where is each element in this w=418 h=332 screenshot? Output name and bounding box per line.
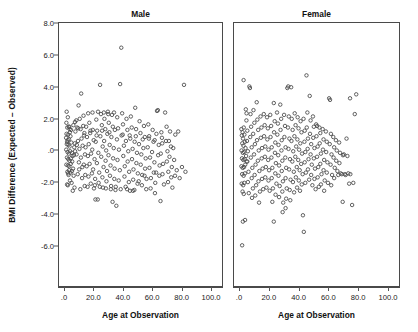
data-point [168,130,171,133]
data-point [111,157,114,160]
x-tick-mark [211,287,212,291]
data-point [272,101,275,104]
data-point [122,144,125,147]
data-point [112,146,115,149]
data-point [110,135,113,138]
data-point [240,244,243,247]
data-point [244,154,247,157]
data-point [158,164,161,167]
data-point [100,129,103,132]
data-point [324,130,327,133]
data-point [333,166,336,169]
scatter-panel-female [233,22,400,287]
data-point [277,195,280,198]
data-point [262,134,265,137]
data-point [101,176,104,179]
data-point [102,165,105,168]
data-point [139,131,142,134]
scatter-points-female [234,23,399,286]
data-point [295,165,298,168]
data-point [242,78,245,81]
data-point [178,176,181,179]
data-point [304,150,307,153]
data-point [250,176,253,179]
data-point [134,134,137,137]
scatter-points-male [59,23,222,286]
data-point [131,178,134,181]
data-point [266,138,269,141]
data-point [353,112,356,115]
data-point [292,191,295,194]
data-point [161,162,164,165]
data-point [126,128,129,131]
data-point [244,146,247,149]
data-point [122,154,125,157]
x-tick-label: 40.0 [115,293,130,302]
data-point [265,186,268,189]
data-point [120,46,123,49]
data-point [107,121,110,124]
data-point [274,172,277,175]
data-point [273,151,276,154]
data-point [304,181,307,184]
data-point [293,112,296,115]
data-point [134,127,137,130]
data-point [147,137,150,140]
data-point [306,137,309,140]
data-point [278,184,281,187]
data-point [101,145,104,148]
data-point [153,161,156,164]
data-point [338,161,341,164]
data-point [95,129,98,132]
data-point [107,153,110,156]
data-point [337,141,340,144]
data-point [287,168,290,171]
data-point [252,153,255,156]
data-point [123,165,126,168]
data-point [288,188,291,191]
data-point [95,118,98,121]
x-tick-label: 20.0 [261,293,276,302]
data-point [281,180,284,183]
x-tick-label: 20.0 [86,293,101,302]
data-point [265,116,268,119]
data-point [275,111,278,114]
data-point [294,176,297,179]
data-point [292,170,295,173]
data-point [78,117,81,120]
data-point [342,153,345,156]
data-point [121,123,124,126]
data-point [290,117,293,120]
data-point [138,119,141,122]
data-point [302,230,305,233]
data-point [293,134,296,137]
data-point [166,180,169,183]
data-point [257,201,260,204]
data-point [280,149,283,152]
data-point [267,179,270,182]
data-point [324,150,327,153]
data-point [153,191,156,194]
data-point [77,161,80,164]
data-point [253,121,256,124]
data-point [105,169,108,172]
scatter-plot-figure: BMI Difference (Expected − Observed) 8.0… [0,0,418,332]
data-point [79,187,82,190]
data-point [77,168,80,171]
data-point [65,121,68,124]
data-point [130,126,133,129]
data-point [65,110,68,113]
data-point [135,161,138,164]
data-point [113,167,116,170]
data-point [139,163,142,166]
data-point [117,179,120,182]
x-tick-label: 100.0 [201,293,220,302]
data-point [99,134,102,137]
x-tick-label: 60.0 [321,293,336,302]
data-point [279,128,282,131]
data-point [74,130,77,133]
data-point [279,117,282,120]
data-point [112,111,115,114]
data-point [137,142,140,145]
x-axis-title-male: Age at Observation [58,310,223,320]
